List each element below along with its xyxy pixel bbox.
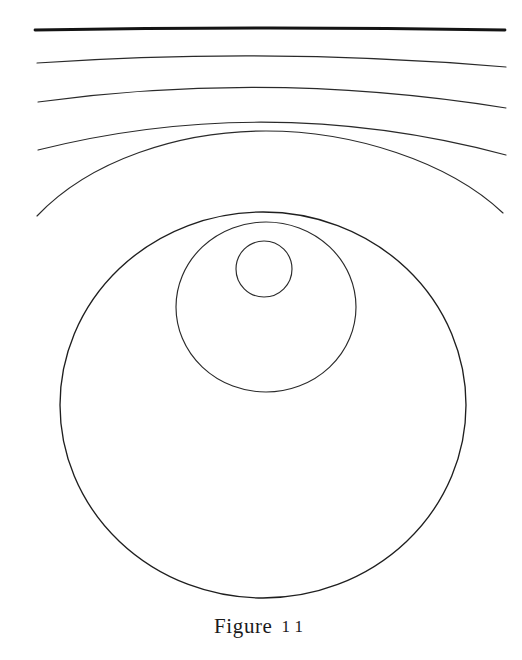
wavefront-diagram bbox=[0, 0, 522, 660]
arc-3 bbox=[38, 87, 506, 108]
figure-caption-number: 11 bbox=[273, 617, 308, 636]
middle-oval bbox=[176, 222, 356, 392]
figure-page: Figure11 bbox=[0, 0, 522, 660]
figure-caption: Figure11 bbox=[0, 614, 522, 639]
arc-1-straight bbox=[35, 28, 505, 30]
outer-oval bbox=[60, 212, 466, 598]
arc-4 bbox=[38, 122, 506, 155]
figure-caption-word: Figure bbox=[214, 614, 272, 638]
arc-5 bbox=[37, 131, 503, 216]
arc-2 bbox=[37, 56, 506, 67]
inner-oval bbox=[236, 241, 292, 297]
